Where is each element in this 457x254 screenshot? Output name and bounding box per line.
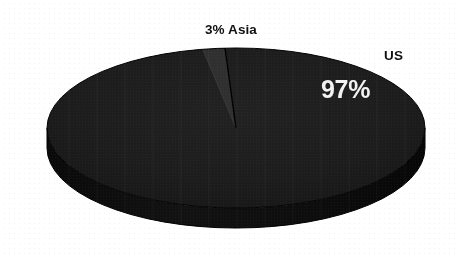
pie-chart-graphic — [0, 0, 457, 254]
pie-label-asia: 3% Asia — [205, 23, 257, 37]
pie-label-us: US — [384, 49, 403, 63]
pie-value-label-us: 97% — [321, 77, 370, 102]
pie-chart-figure: 3% Asia US 97% — [0, 0, 457, 254]
